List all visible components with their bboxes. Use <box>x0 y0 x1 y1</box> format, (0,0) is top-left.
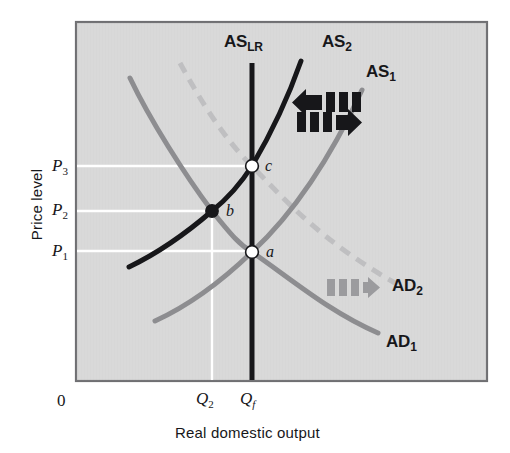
origin-label: 0 <box>57 391 66 411</box>
y-tick-p3: P3 <box>52 156 68 177</box>
as-ad-diagram: Price level Real domestic output 0 P3 P2… <box>0 0 510 453</box>
curve-label-ad-1-sub: 1 <box>410 340 416 354</box>
y-tick-p3-base: P <box>52 156 62 175</box>
curve-label-as-2-base: AS <box>322 32 345 51</box>
curve-label-as-1-base: AS <box>366 62 389 81</box>
point-label-a: a <box>266 243 274 261</box>
y-tick-p1-base: P <box>52 241 62 260</box>
y-tick-p3-sub: 3 <box>62 165 68 177</box>
y-tick-p2: P2 <box>52 200 68 221</box>
x-tick-q2-sub: 2 <box>208 398 214 410</box>
curve-label-as-2-sub: 2 <box>345 40 351 54</box>
curve-label-ad-2-sub: 2 <box>416 284 422 298</box>
curve-label-as-1: AS1 <box>366 62 396 82</box>
plot-canvas <box>0 0 510 453</box>
curve-label-ad-2-base: AD <box>392 276 416 295</box>
x-tick-qf: Qf <box>240 389 255 410</box>
y-axis-title: Price level <box>28 145 45 265</box>
paper-texture <box>76 22 487 381</box>
curve-label-as-lr-sub: LR <box>247 40 263 54</box>
y-tick-p1-sub: 1 <box>62 250 68 262</box>
x-tick-qf-base: Q <box>240 389 252 408</box>
y-tick-p1: P1 <box>52 241 68 262</box>
point-label-b: b <box>226 202 234 220</box>
y-tick-p2-sub: 2 <box>62 209 68 221</box>
x-axis-title: Real domestic output <box>175 424 320 441</box>
y-tick-p2-base: P <box>52 200 62 219</box>
point-a-marker <box>246 246 259 259</box>
curve-label-as-lr: ASLR <box>224 32 263 52</box>
curve-label-as-lr-base: AS <box>224 32 247 51</box>
x-tick-q2-base: Q <box>196 389 208 408</box>
point-label-c: c <box>265 157 272 175</box>
x-tick-q2: Q2 <box>196 389 214 410</box>
x-tick-qf-sub: f <box>252 398 255 410</box>
curve-label-as-2: AS2 <box>322 32 352 52</box>
curve-label-ad-1-base: AD <box>386 332 410 351</box>
curve-label-as-1-sub: 1 <box>389 70 395 84</box>
curve-label-ad-1: AD1 <box>386 332 417 352</box>
curve-label-ad-2: AD2 <box>392 276 423 296</box>
point-c-marker <box>246 160 259 173</box>
point-b-marker <box>206 205 218 217</box>
